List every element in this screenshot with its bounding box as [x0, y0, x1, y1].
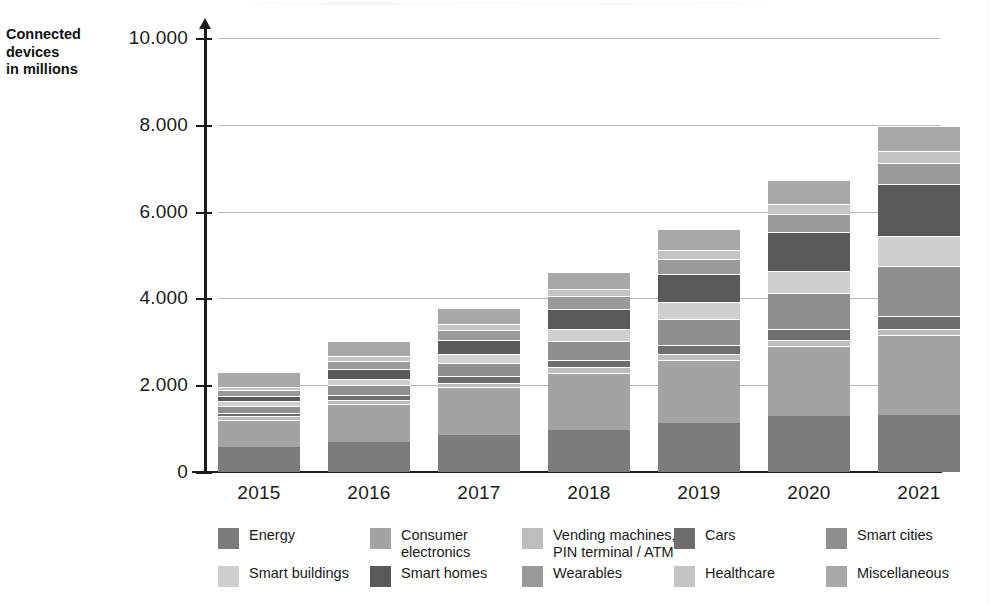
bar-segment[interactable] — [878, 415, 960, 472]
legend-label: Smart homes — [401, 565, 487, 582]
bar-segment[interactable] — [548, 430, 630, 472]
bar-segment[interactable] — [658, 345, 740, 354]
scan-artifact — [250, 2, 770, 5]
y-axis-tick-label: 10.000 — [129, 27, 188, 49]
bar-segment[interactable] — [658, 302, 740, 319]
legend-item[interactable]: Smart cities — [826, 527, 978, 565]
legend-item[interactable]: Smart homes — [370, 565, 522, 603]
legend-row: EnergyConsumerelectronicsVending machine… — [218, 527, 978, 565]
bar-segment[interactable] — [658, 319, 740, 345]
y-axis-caption: Connected devices in millions — [6, 26, 126, 79]
bar-segment[interactable] — [878, 184, 960, 236]
bar-segment[interactable] — [548, 373, 630, 431]
bar-segment[interactable] — [658, 423, 740, 472]
bar-segment[interactable] — [768, 346, 850, 416]
bar-segment[interactable] — [878, 266, 960, 316]
bar-segment[interactable] — [878, 151, 960, 163]
legend-item[interactable]: Smart buildings — [218, 565, 370, 603]
bar-segment[interactable] — [548, 329, 630, 341]
legend-label-line-2: electronics — [401, 544, 470, 561]
bar-segment[interactable] — [438, 340, 520, 355]
legend-label-line-1: Smart homes — [401, 565, 487, 582]
y-axis-arrow-icon — [199, 18, 211, 29]
bar-segment[interactable] — [878, 126, 960, 151]
legend-item[interactable]: Consumerelectronics — [370, 527, 522, 565]
y-axis-tick — [196, 125, 212, 127]
bar-segment[interactable] — [658, 274, 740, 302]
legend-item[interactable]: Miscellaneous — [826, 565, 978, 603]
bar-segment[interactable] — [328, 369, 410, 379]
bar-segment[interactable] — [768, 293, 850, 329]
bar-2017[interactable] — [438, 308, 520, 472]
bar-segment[interactable] — [438, 308, 520, 324]
legend-item[interactable]: Wearables — [522, 565, 674, 603]
legend-label: Wearables — [553, 565, 622, 582]
legend-label: Smart cities — [857, 527, 933, 544]
bar-segment[interactable] — [548, 272, 630, 289]
bar-segment[interactable] — [328, 385, 410, 395]
bar-segment[interactable] — [548, 289, 630, 296]
legend-swatch — [218, 566, 239, 587]
bar-segment[interactable] — [328, 341, 410, 356]
page-edge — [986, 0, 992, 606]
bar-segment[interactable] — [438, 330, 520, 340]
bar-segment[interactable] — [218, 447, 300, 472]
bar-segment[interactable] — [658, 250, 740, 259]
bar-segment[interactable] — [768, 204, 850, 214]
bar-segment[interactable] — [548, 309, 630, 329]
bar-segment[interactable] — [438, 363, 520, 376]
bar-2015[interactable] — [218, 372, 300, 472]
bar-segment[interactable] — [218, 372, 300, 386]
bar-2019[interactable] — [658, 229, 740, 472]
bar-segment[interactable] — [878, 163, 960, 184]
bar-segment[interactable] — [328, 404, 410, 441]
legend-label-line-1: Healthcare — [705, 565, 775, 582]
legend-item[interactable]: Energy — [218, 527, 370, 565]
legend-swatch — [826, 528, 847, 549]
bar-segment[interactable] — [548, 341, 630, 359]
bar-segment[interactable] — [658, 360, 740, 424]
bar-segment[interactable] — [658, 229, 740, 250]
legend-swatch — [674, 528, 695, 549]
bar-segment[interactable] — [768, 271, 850, 294]
bar-segment[interactable] — [768, 416, 850, 472]
bar-segment[interactable] — [548, 360, 630, 368]
bar-segment[interactable] — [438, 387, 520, 434]
bar-segment[interactable] — [878, 335, 960, 415]
bar-2018[interactable] — [548, 272, 630, 472]
y-axis-tick — [196, 298, 212, 300]
bar-2020[interactable] — [768, 180, 850, 472]
x-axis-tick-label: 2021 — [878, 482, 960, 504]
bar-segment[interactable] — [438, 354, 520, 363]
y-axis-tick — [196, 212, 212, 214]
legend-swatch — [674, 566, 695, 587]
bar-segment[interactable] — [548, 296, 630, 309]
bar-segment[interactable] — [768, 180, 850, 204]
y-axis-tick — [196, 385, 212, 387]
y-axis-tick-label: 0 — [177, 461, 188, 483]
bar-segment[interactable] — [878, 316, 960, 329]
legend-item[interactable]: Healthcare — [674, 565, 826, 603]
bar-segment[interactable] — [768, 232, 850, 270]
gridline — [218, 38, 940, 39]
legend-label: Vending machines,PIN terminal / ATM — [553, 527, 676, 561]
legend-item[interactable]: Cars — [674, 527, 826, 565]
bar-segment[interactable] — [218, 420, 300, 447]
legend-swatch — [522, 566, 543, 587]
y-axis-tick-label: 6.000 — [139, 201, 188, 223]
legend-item[interactable]: Vending machines,PIN terminal / ATM — [522, 527, 674, 565]
legend-label-line-1: Vending machines, — [553, 527, 676, 544]
bar-segment[interactable] — [768, 214, 850, 232]
bar-segment[interactable] — [658, 259, 740, 274]
y-axis-tick-label: 8.000 — [139, 114, 188, 136]
bar-segment[interactable] — [438, 435, 520, 472]
y-axis-tick-label: 2.000 — [139, 374, 188, 396]
bar-segment[interactable] — [768, 329, 850, 340]
legend-swatch — [522, 528, 543, 549]
bar-segment[interactable] — [328, 361, 410, 369]
legend-swatch — [370, 528, 391, 549]
bar-2016[interactable] — [328, 341, 410, 472]
bar-segment[interactable] — [878, 236, 960, 266]
bar-2021[interactable] — [878, 126, 960, 472]
bar-segment[interactable] — [328, 442, 410, 472]
